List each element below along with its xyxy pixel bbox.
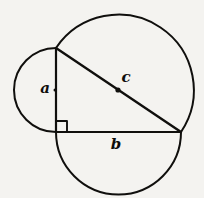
- label-leg-a: a: [40, 79, 50, 97]
- right-angle-marker-icon: [56, 121, 67, 132]
- label-a-tick-dot: [54, 89, 57, 92]
- geometry-diagram-svg: a b c: [0, 0, 204, 198]
- label-hypotenuse-c: c: [121, 68, 130, 86]
- hypotenuse-midpoint-dot: [115, 87, 120, 92]
- geometry-diagram-canvas: a b c: [0, 0, 204, 198]
- label-leg-b: b: [111, 135, 122, 153]
